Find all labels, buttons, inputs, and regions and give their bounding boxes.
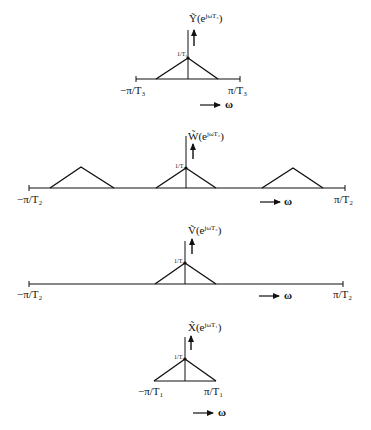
- panel-x-spectrum: X̃(ejωT₁) 1/T₁ −π/T₁ π/T₁ ω: [138, 321, 226, 418]
- right-limit-label: π/T₂: [333, 288, 352, 300]
- spectrum-title: Ṽ(ejωT₂): [188, 224, 222, 237]
- left-limit-label: −π/T₂: [17, 288, 43, 300]
- triangle-replica-right: [262, 168, 323, 188]
- peak-label: 1/T₂: [174, 258, 184, 264]
- peak-label: 1/T₃: [177, 51, 187, 57]
- spectra-diagram: Ỹ(ejωT₃) 1/T₃ −π/T₃ π/T₃ ω W̃(ejωT₂) 1/T…: [0, 0, 371, 430]
- triangle-spectrum: [156, 58, 218, 79]
- left-limit-label: −π/T₃: [120, 84, 146, 96]
- left-limit-label: −π/T₂: [17, 193, 43, 205]
- peak-label: 1/T₁: [174, 354, 184, 360]
- spectrum-title: Ỹ(ejωT₃): [189, 12, 223, 25]
- right-limit-label: π/T₃: [228, 84, 247, 96]
- panel-y-spectrum: Ỹ(ejωT₃) 1/T₃ −π/T₃ π/T₃ ω: [120, 12, 247, 110]
- omega-label: ω: [284, 289, 292, 301]
- omega-label: ω: [218, 406, 226, 418]
- panel-v-spectrum: Ṽ(ejωT₂) 1/T₂ −π/T₂ π/T₂ ω: [17, 224, 352, 301]
- peak-label: 1/T₂: [175, 163, 185, 169]
- omega-label: ω: [225, 98, 233, 110]
- omega-label: ω: [284, 195, 292, 207]
- spectrum-title: X̃(ejωT₁): [188, 321, 222, 334]
- triangle-replica-left: [50, 167, 114, 188]
- right-limit-label: π/T₁: [204, 385, 223, 397]
- spectrum-title: W̃(ejωT₂): [188, 130, 224, 143]
- right-limit-label: π/T₂: [334, 193, 353, 205]
- left-limit-label: −π/T₁: [138, 385, 164, 397]
- panel-w-spectrum: W̃(ejωT₂) 1/T₂ −π/T₂ π/T₂ ω: [17, 130, 353, 207]
